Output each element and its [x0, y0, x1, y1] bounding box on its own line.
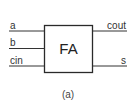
figure-caption: (a): [62, 89, 74, 100]
input-label-b: b: [10, 37, 16, 48]
full-adder-diagram: FA a b cin cout s (a): [0, 0, 135, 107]
input-label-cin: cin: [10, 55, 23, 66]
output-label-s: s: [121, 55, 126, 66]
output-label-cout: cout: [107, 20, 126, 31]
input-label-a: a: [10, 20, 16, 31]
fa-block-label: FA: [59, 40, 77, 57]
